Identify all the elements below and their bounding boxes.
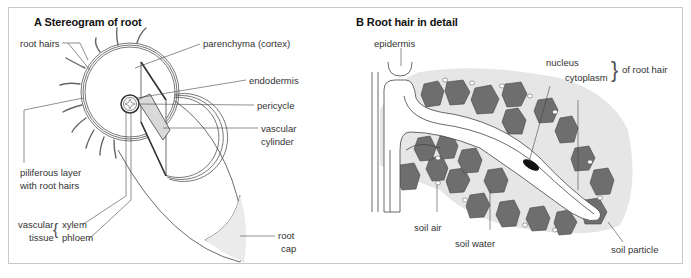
brace-of-root-hair: }	[611, 56, 618, 84]
label-of-root-hair: of root hair	[622, 64, 667, 75]
label-soil-water: soil water	[455, 238, 495, 249]
label-cytoplasm: cytoplasm	[565, 72, 608, 83]
label-nucleus: nucleus	[546, 57, 579, 68]
label-epidermis: epidermis	[374, 38, 415, 49]
label-soil-air: soil air	[414, 222, 441, 233]
label-soil-particle: soil particle	[611, 244, 659, 255]
root-hair-illustration	[0, 0, 691, 278]
